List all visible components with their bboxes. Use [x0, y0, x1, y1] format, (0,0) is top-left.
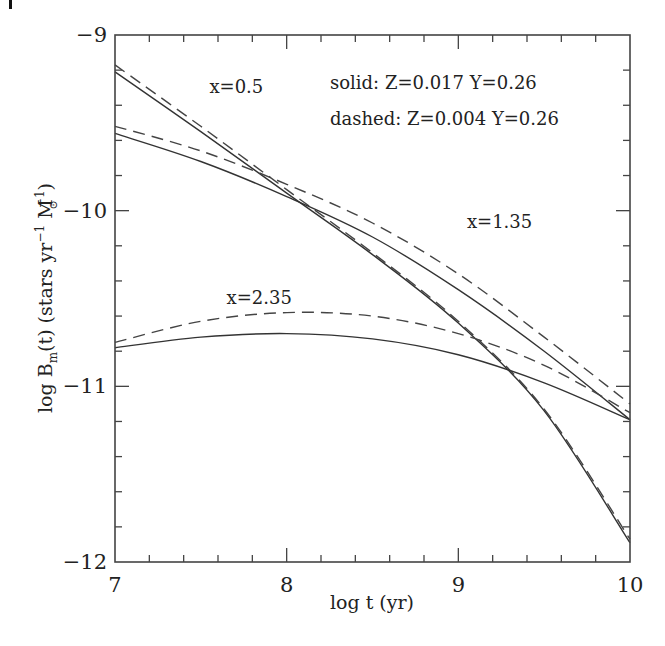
y-tick-label: −12	[63, 550, 107, 574]
legend-dashed: dashed: Z=0.004 Y=0.26	[330, 108, 559, 129]
y-label-suffix: )	[34, 183, 56, 190]
y-tick-label: −10	[63, 199, 107, 223]
series-line-1	[115, 65, 630, 539]
series-line-2	[115, 133, 630, 419]
y-tick-label: −11	[63, 374, 107, 398]
y-label-prefix: log B	[34, 363, 56, 413]
curve-annotation-0: x=0.5	[209, 76, 263, 97]
y-label-sup2: −1	[33, 190, 47, 208]
curve-annotation-1: x=1.35	[467, 211, 532, 232]
y-axis-label: log Bm(t) (stars yr−1 M⊙−1)	[33, 183, 60, 413]
legend-solid: solid: Z=0.017 Y=0.26	[330, 72, 537, 93]
series-line-0	[115, 72, 630, 543]
x-tick-label: 7	[108, 573, 121, 597]
series-line-3	[115, 126, 630, 404]
y-label-sub2: ⊙	[47, 200, 60, 209]
y-label-sup1: −1	[33, 225, 47, 243]
series-line-4	[115, 334, 630, 420]
corner-mark	[9, 0, 12, 9]
x-axis-label: log t (yr)	[330, 591, 414, 613]
y-tick-label: −9	[76, 23, 107, 47]
y-label-sub: m	[46, 351, 60, 363]
x-tick-label: 8	[280, 573, 293, 597]
curve-annotation-2: x=2.35	[227, 287, 292, 308]
y-label-mid: (t) (stars yr	[34, 242, 56, 352]
series-line-5	[115, 312, 630, 412]
chart: 78910−12−11−10−9 log t (yr) log Bm(t) (s…	[0, 0, 665, 646]
x-tick-label: 10	[617, 573, 644, 597]
x-tick-label: 9	[452, 573, 465, 597]
curves-layer	[115, 65, 630, 543]
